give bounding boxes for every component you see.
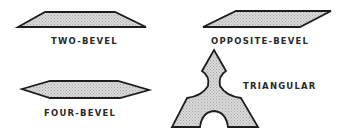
two-bevel-label: TWO-BEVEL xyxy=(51,36,118,46)
four-bevel-label: FOUR-BEVEL xyxy=(44,108,116,118)
four-bevel-shape xyxy=(22,81,149,98)
two-bevel-figure: TWO-BEVEL xyxy=(18,12,146,46)
opposite-bevel-figure: OPPOSITE-BEVEL xyxy=(203,11,331,46)
opposite-bevel-shape xyxy=(203,11,331,27)
two-bevel-shape xyxy=(18,12,146,27)
triangular-label: TRIANGULAR xyxy=(243,81,317,91)
bevel-shapes-diagram: TWO-BEVEL OPPOSITE-BEVEL FOUR-BEVEL TRIA… xyxy=(0,0,347,137)
four-bevel-figure: FOUR-BEVEL xyxy=(22,81,149,118)
opposite-bevel-label: OPPOSITE-BEVEL xyxy=(211,36,309,46)
triangular-figure: TRIANGULAR xyxy=(172,50,317,127)
